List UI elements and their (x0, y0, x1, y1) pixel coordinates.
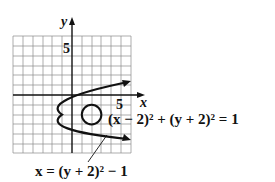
parabola-arrow-top-icon (122, 80, 131, 87)
parabola-arrow-bottom-icon (122, 134, 131, 141)
parabola-equation: x = (y + 2)² − 1 (35, 163, 128, 180)
x-tick-label: 5 (116, 97, 123, 112)
graph-figure: y 5 5 x (x − 2)² + (y + 2)² = 1 x = (y +… (0, 0, 275, 182)
y-axis-label: y (59, 14, 68, 29)
parabola-leader-line (88, 135, 107, 162)
y-tick-label: 5 (63, 41, 70, 56)
circle-curve (82, 105, 102, 125)
x-axis-label: x (139, 95, 147, 110)
circle-equation: (x − 2)² + (y + 2)² = 1 (108, 111, 239, 128)
y-axis-arrow-icon (69, 17, 75, 25)
